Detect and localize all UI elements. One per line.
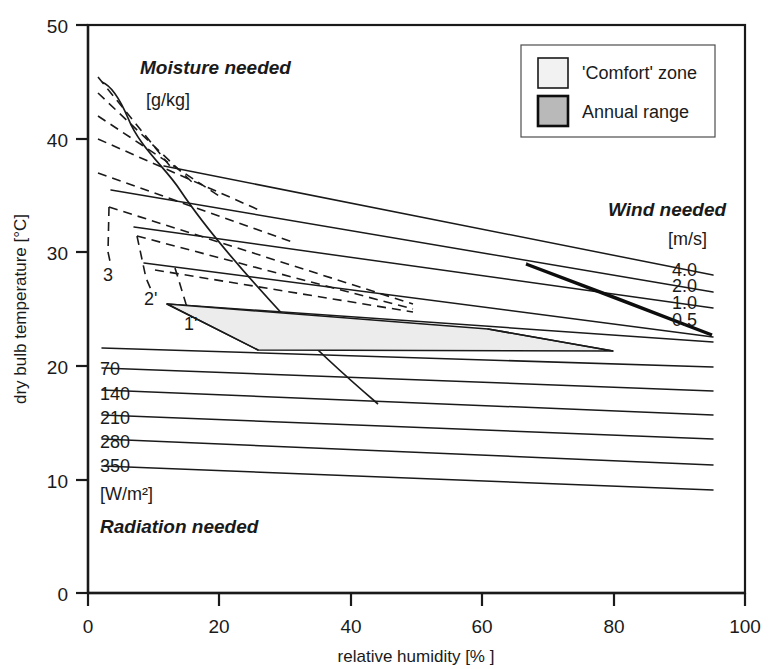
- wind-needed-label: Wind needed: [608, 199, 726, 220]
- wind-units-label: [m/s]: [668, 229, 707, 249]
- y-tick-label-0: 0: [57, 584, 68, 605]
- radiation-value-140: 140: [100, 384, 130, 404]
- moisture-value-1: 1': [184, 314, 197, 334]
- radiation-line-70: [102, 368, 713, 391]
- chart-canvas: 50 40 30 20 10 0 0 20 40 60 80 100 relat…: [0, 0, 769, 669]
- legend-swatch-comfort-zone: [538, 58, 568, 88]
- legend-label-comfort-zone: 'Comfort' zone: [582, 63, 697, 83]
- y-tick-label-10: 10: [47, 471, 68, 492]
- y-tick-label-40: 40: [47, 130, 68, 151]
- moisture-dashed-4: [98, 139, 259, 210]
- moisture-dashed-5: [98, 173, 295, 243]
- moisture-value-2: 2': [144, 289, 157, 309]
- x-axis-title: relative humidity [% ]: [338, 647, 495, 666]
- radiation-line-210: [102, 415, 713, 439]
- y-axis-title: dry bulb temperature [°C]: [11, 214, 30, 404]
- radiation-line-140: [102, 390, 713, 415]
- wind-value-0.5: 0.5: [672, 310, 697, 330]
- x-tick-label-80: 80: [603, 616, 624, 637]
- moisture-units-label: [g/kg]: [146, 90, 190, 110]
- y-tick-label-20: 20: [47, 357, 68, 378]
- bioclimatic-chart: 50 40 30 20 10 0 0 20 40 60 80 100 relat…: [0, 0, 769, 669]
- moisture-needed-label: Moisture needed: [140, 57, 291, 78]
- radiation-value-210: 210: [100, 408, 130, 428]
- x-tick-label-60: 60: [471, 616, 492, 637]
- x-tick-label-40: 40: [340, 616, 361, 637]
- legend-swatch-annual-range: [538, 96, 568, 126]
- moisture-value-3: 3: [103, 265, 113, 285]
- x-tick-label-20: 20: [208, 616, 229, 637]
- y-tick-label-30: 30: [47, 243, 68, 264]
- radiation-value-350: 350: [100, 456, 130, 476]
- x-tick-label-100: 100: [729, 616, 761, 637]
- wind-line-1.0: [134, 227, 713, 308]
- radiation-value-70: 70: [100, 359, 120, 379]
- legend-label-annual-range: Annual range: [582, 102, 689, 122]
- moisture-leader-3: [108, 207, 111, 266]
- radiation-units-label: [W/m²]: [100, 484, 153, 504]
- legend: 'Comfort' zone Annual range: [521, 45, 715, 137]
- x-tick-label-0: 0: [83, 616, 94, 637]
- y-tick-label-50: 50: [47, 16, 68, 37]
- wind-line-4.0: [164, 166, 713, 275]
- radiation-needed-label: Radiation needed: [100, 516, 259, 537]
- comfort-zone-region: [167, 304, 613, 351]
- data-lines-group: [98, 77, 713, 490]
- radiation-value-280: 280: [100, 432, 130, 452]
- radiation-line-350: [102, 466, 713, 490]
- radiation-line-280: [102, 439, 713, 465]
